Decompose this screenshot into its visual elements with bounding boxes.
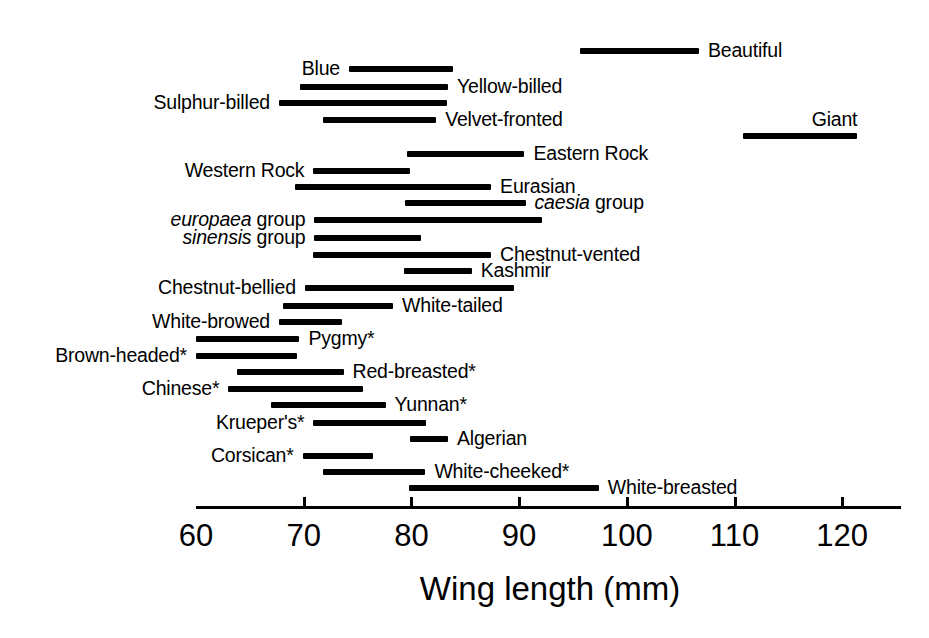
range-bar [283,303,393,309]
range-row-label: Chinese* [142,379,220,399]
range-bar [410,436,448,442]
range-row-label: Western Rock [185,161,305,181]
range-bar [313,252,491,258]
range-bar [196,336,299,342]
range-bar [313,420,426,426]
range-bar [237,369,344,375]
range-bar [323,117,436,123]
x-axis-tick [410,497,413,509]
range-row-label: Blue [302,59,340,79]
x-axis-tick-label: 120 [816,520,868,551]
range-bar [279,319,343,325]
range-row-label: Krueper's* [216,413,304,433]
range-bar [409,485,599,491]
range-row-label: Kashmir [481,261,551,281]
range-bar [404,268,472,274]
range-bar [743,133,857,139]
x-axis-tick-label: 70 [286,520,320,551]
range-row-label: sinensis group [183,228,306,248]
range-bar [405,200,526,206]
range-row-label: Giant [812,110,858,130]
range-bar [314,235,421,241]
range-bar [303,453,373,459]
x-axis-title: Wing length (mm) [420,572,680,605]
range-bar [323,469,425,475]
range-bar [300,84,448,90]
x-axis-tick [734,497,737,509]
x-axis-tick-label: 90 [502,520,536,551]
range-bar [580,48,698,54]
range-bar [305,285,514,291]
range-bar [196,353,297,359]
x-axis-tick [841,497,844,509]
x-axis-tick-label: 110 [710,520,759,551]
x-axis-tick-label: 100 [601,520,653,551]
x-axis-tick-label: 60 [179,520,213,551]
range-row-label: Yellow-billed [457,77,562,97]
range-row-label: Sulphur-billed [153,93,269,113]
range-bar [349,66,453,72]
range-bar [407,151,524,157]
range-bar [279,100,447,106]
range-row-label: caesia group [535,193,644,213]
range-row-label: Algerian [457,429,527,449]
range-bar [295,184,491,190]
range-row-label: White-breasted [608,478,737,498]
plot-area: BeautifulBlueYellow-billedSulphur-billed… [0,0,929,510]
range-bar [228,386,363,392]
range-row-label: Chestnut-bellied [158,278,296,298]
range-bar [271,402,385,408]
range-bar [313,168,410,174]
x-axis-tick [518,497,521,509]
range-row-label: White-browed [152,312,270,332]
range-row-label: Yunnan* [395,395,467,415]
range-row-label: Pygmy* [308,329,374,349]
range-row-label: White-cheeked* [434,462,569,482]
range-row-label: Eastern Rock [533,144,648,164]
x-axis-tick [626,497,629,509]
range-row-label: Corsican* [211,446,294,466]
range-row-label: Velvet-fronted [445,110,563,130]
range-row-label: Brown-headed* [55,346,187,366]
x-axis-tick-label: 80 [394,520,428,551]
range-row-label: White-tailed [402,296,503,316]
wing-length-range-chart: BeautifulBlueYellow-billedSulphur-billed… [0,0,929,638]
range-row-label: Red-breasted* [353,362,476,382]
range-bar [314,217,541,223]
x-axis-tick [303,497,306,509]
range-row-label: Beautiful [708,41,782,61]
